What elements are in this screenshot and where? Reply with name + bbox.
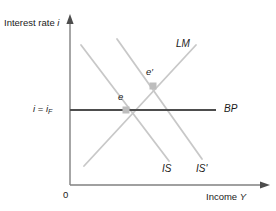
is-curve-label: IS <box>162 164 171 174</box>
y-axis-label-symbol: i <box>57 17 59 28</box>
is-prime-curve-label: IS' <box>196 164 207 174</box>
equilibrium-point-e-prime-marker <box>150 83 157 90</box>
x-axis-label-symbol: Y <box>240 191 246 202</box>
lm-curve <box>84 45 196 166</box>
is-curve <box>81 45 169 161</box>
y-axis-label-text: Interest rate <box>4 17 57 28</box>
x-axis-label: Income Y <box>206 192 246 202</box>
equilibrium-point-e-marker <box>123 107 130 114</box>
origin-label: 0 <box>63 190 68 200</box>
is-prime-curve <box>117 39 202 159</box>
is-lm-bp-diagram: Interest rate i Income Y 0 i = iF LM IS … <box>0 0 276 211</box>
tick-subscript: F <box>48 108 52 115</box>
lm-curve-label: LM <box>176 39 190 49</box>
equilibrium-point-e-label: e <box>118 92 123 102</box>
y-axis-arrowhead <box>66 14 73 24</box>
tick-equals: = <box>35 103 46 114</box>
y-axis-label: Interest rate i <box>4 18 59 28</box>
equilibrium-point-e-prime-label: e′ <box>146 67 153 77</box>
bp-line-label: BP <box>224 104 237 114</box>
interest-rate-tick-label: i = iF <box>33 104 52 115</box>
x-axis-label-text: Income <box>206 191 240 202</box>
x-axis-arrowhead <box>260 181 270 188</box>
